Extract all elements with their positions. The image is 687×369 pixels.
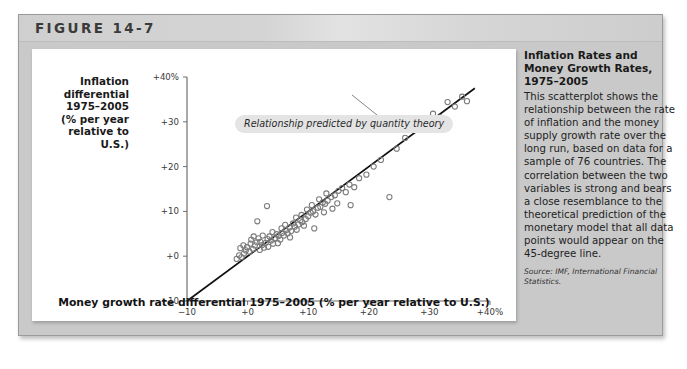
caption-title: Inflation Rates and Money Growth Rates, … [524,49,676,88]
data-point [270,229,275,234]
data-point [452,104,457,109]
data-point [330,206,335,211]
x-axis-title: Money growth rate differential 1975–2005… [32,296,516,309]
data-point [343,190,348,195]
data-point [335,201,340,206]
data-point [287,235,292,240]
data-point [348,203,353,208]
figure-header-band: FIGURE 14-7 [19,15,662,42]
data-point [445,99,450,104]
figure-label: FIGURE 14-7 [35,20,156,36]
data-point [309,203,314,208]
plot-panel: Inflationdifferential1975–2005(% per yea… [32,49,516,321]
y-tick-label: +10 [161,206,179,216]
caption-column: Inflation Rates and Money Growth Rates, … [524,49,676,287]
y-tick-label: +40% [153,72,179,82]
callout-leader-line [352,95,377,115]
y-tick-label: +0 [166,251,179,261]
data-point [317,197,322,202]
data-point [347,182,352,187]
axis-ticks: −10+0+10+20+30+40%−10+0+10+20+30+40% [153,72,503,317]
data-point [387,194,392,199]
data-point [371,164,376,169]
data-point [264,203,269,208]
data-point [283,222,288,227]
data-point [260,233,265,238]
caption-body: This scatterplot shows the relationship … [524,90,676,260]
y-tick-label: +30 [161,117,179,127]
data-point [357,176,362,181]
data-point [464,99,469,104]
callout-label: Relationship predicted by quantity theor… [235,115,453,133]
data-point [364,172,369,177]
data-point [312,226,317,231]
data-point [321,210,326,215]
figure-card: FIGURE 14-7 Inflationdifferential1975–20… [18,14,663,336]
caption-source: Source: IMF, International Financial Sta… [524,267,676,287]
data-point [324,191,329,196]
y-tick-label: +20 [161,162,179,172]
data-point [255,219,260,224]
scatter-chart: −10+0+10+20+30+40%−10+0+10+20+30+40% [32,49,516,321]
data-point [352,185,357,190]
